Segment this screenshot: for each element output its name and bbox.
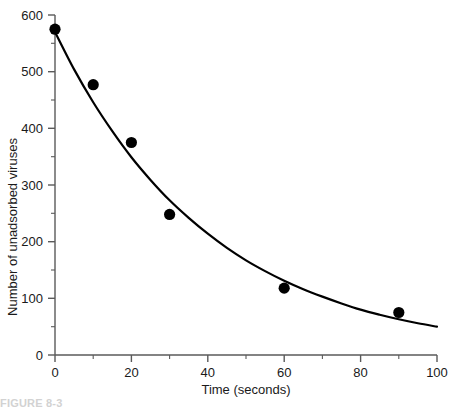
x-tick-label-0: 0 bbox=[51, 365, 58, 380]
y-tick-label-100: 100 bbox=[21, 291, 43, 306]
y-tick-label-300: 300 bbox=[21, 178, 43, 193]
data-point bbox=[126, 137, 137, 148]
x-tick-label-80: 80 bbox=[353, 365, 367, 380]
y-axis-title: Number of unadsorbed viruses bbox=[5, 138, 20, 316]
x-tick-label-60: 60 bbox=[277, 365, 291, 380]
x-tick-label-40: 40 bbox=[201, 365, 215, 380]
virus-adsorption-chart: 0 100 200 300 400 500 600 Number of unad… bbox=[0, 0, 452, 409]
data-point bbox=[88, 79, 99, 90]
y-tick-label-400: 400 bbox=[21, 121, 43, 136]
data-point bbox=[164, 209, 175, 220]
figure-container: 0 100 200 300 400 500 600 Number of unad… bbox=[0, 0, 452, 409]
data-point bbox=[279, 283, 290, 294]
y-tick-label-200: 200 bbox=[21, 234, 43, 249]
plot-background bbox=[0, 0, 452, 409]
data-point bbox=[49, 24, 60, 35]
y-tick-label-500: 500 bbox=[21, 64, 43, 79]
x-axis-title: Time (seconds) bbox=[201, 382, 290, 397]
figure-caption-fragment: FIGURE 8-3 bbox=[0, 397, 452, 409]
data-point bbox=[393, 307, 404, 318]
x-tick-label-100: 100 bbox=[426, 365, 448, 380]
y-tick-label-0: 0 bbox=[36, 348, 43, 363]
x-tick-label-20: 20 bbox=[124, 365, 138, 380]
y-tick-label-600: 600 bbox=[21, 8, 43, 23]
